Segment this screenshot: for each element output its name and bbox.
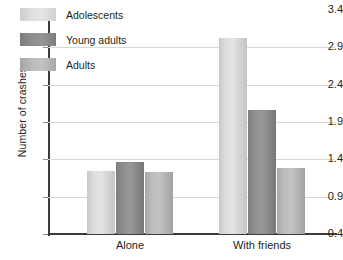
- y-tick-label: 0.4: [301, 227, 343, 239]
- legend-item-young-adults: Young adults: [20, 31, 126, 48]
- gridline: [48, 122, 335, 123]
- bar-with-friends-young-adults: [248, 110, 276, 234]
- legend-label-adolescents: Adolescents: [66, 9, 123, 21]
- gridline: [48, 159, 335, 160]
- legend-swatch-icon-young-adults: [20, 33, 56, 46]
- chart-legend: Adolescents Young adults Adults: [20, 6, 126, 81]
- y-tick-label: 1.4: [301, 152, 343, 164]
- x-tick-label: With friends: [202, 239, 322, 251]
- legend-swatch-icon-adolescents: [20, 8, 56, 21]
- y-tick-label: 3.4: [301, 3, 343, 15]
- y-tick-label: 1.9: [301, 115, 343, 127]
- x-tick-label: Alone: [70, 239, 190, 251]
- legend-swatch-icon-adults: [20, 58, 56, 71]
- bar-alone-adults: [145, 172, 173, 234]
- y-tick-label: 0.9: [301, 190, 343, 202]
- legend-item-adults: Adults: [20, 56, 126, 73]
- y-tick-label: 2.9: [301, 40, 343, 52]
- gridline: [48, 85, 335, 86]
- bar-chart: Number of crashes 0.40.91.41.92.42.93.4 …: [0, 0, 343, 260]
- legend-item-adolescents: Adolescents: [20, 6, 126, 23]
- legend-label-young-adults: Young adults: [66, 34, 126, 46]
- y-tick-mark: [43, 159, 48, 160]
- y-tick-mark: [43, 197, 48, 198]
- bar-alone-young-adults: [116, 162, 144, 234]
- y-tick-label: 2.4: [301, 78, 343, 90]
- bar-with-friends-adolescents: [219, 38, 247, 234]
- legend-label-adults: Adults: [66, 59, 95, 71]
- y-tick-mark: [43, 85, 48, 86]
- bar-alone-adolescents: [87, 171, 115, 234]
- y-tick-mark: [43, 234, 48, 235]
- y-tick-mark: [43, 122, 48, 123]
